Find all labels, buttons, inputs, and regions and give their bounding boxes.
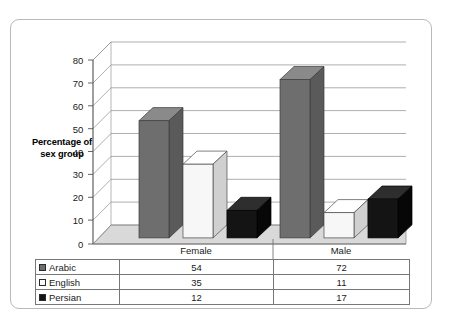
chart-data-table: Arabic 54 72 English 35 11 Persian 12 17 bbox=[35, 259, 410, 305]
ytick-label-60: 60 bbox=[59, 101, 83, 112]
category-label-male: Male bbox=[273, 245, 409, 256]
cell-persian-male: 17 bbox=[274, 290, 410, 305]
english-swatch-icon bbox=[39, 279, 46, 286]
table-row: Arabic 54 72 bbox=[36, 260, 410, 275]
legend-label-persian: Persian bbox=[49, 292, 81, 303]
bar-female-arabic bbox=[139, 108, 183, 238]
y-axis-title-line1: Percentage of bbox=[19, 137, 105, 149]
legend-cell-persian: Persian bbox=[36, 290, 120, 305]
ytick-label-10: 10 bbox=[59, 215, 83, 226]
chart-frame: 80 70 60 50 40 30 20 10 0 Percentage of … bbox=[10, 19, 432, 309]
table-row: Persian 12 17 bbox=[36, 290, 410, 305]
ytick-label-80: 80 bbox=[59, 55, 83, 66]
legend-cell-arabic: Arabic bbox=[36, 260, 120, 275]
cell-english-male: 11 bbox=[274, 275, 410, 290]
legend-label-english: English bbox=[49, 277, 80, 288]
legend-label-arabic: Arabic bbox=[49, 262, 76, 273]
arabic-swatch-icon bbox=[39, 264, 46, 271]
bar-female-english bbox=[183, 151, 227, 238]
bar-male-arabic bbox=[280, 67, 324, 238]
cell-arabic-male: 72 bbox=[274, 260, 410, 275]
persian-swatch-icon bbox=[39, 294, 46, 301]
y-axis-title: Percentage of sex group bbox=[19, 137, 105, 160]
ytick-label-50: 50 bbox=[59, 124, 83, 135]
bar-male-persian bbox=[368, 186, 412, 238]
ytick-label-0: 0 bbox=[59, 239, 83, 250]
ytick-label-70: 70 bbox=[59, 78, 83, 89]
cell-english-female: 35 bbox=[120, 275, 274, 290]
category-label-female: Female bbox=[119, 245, 273, 256]
ytick-label-20: 20 bbox=[59, 192, 83, 203]
ytick-label-30: 30 bbox=[59, 169, 83, 180]
table-row: English 35 11 bbox=[36, 275, 410, 290]
y-axis-title-line2: sex group bbox=[19, 149, 105, 161]
cell-arabic-female: 54 bbox=[120, 260, 274, 275]
legend-cell-english: English bbox=[36, 275, 120, 290]
cell-persian-female: 12 bbox=[120, 290, 274, 305]
